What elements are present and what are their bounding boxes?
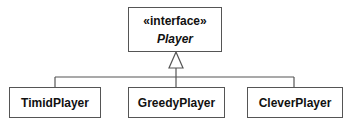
class-name: TimidPlayer xyxy=(21,96,89,110)
interface-player-box: «interface» Player xyxy=(128,7,222,52)
class-name: CleverPlayer xyxy=(259,96,332,110)
uml-diagram: «interface» Player TimidPlayer GreedyPla… xyxy=(0,0,348,125)
interface-name: Player xyxy=(157,32,193,46)
interface-stereotype: «interface» xyxy=(143,14,206,28)
class-timidplayer-box: TimidPlayer xyxy=(9,87,101,118)
class-cleverplayer-box: CleverPlayer xyxy=(247,87,343,118)
class-name: GreedyPlayer xyxy=(138,96,215,110)
realization-arrow-icon xyxy=(169,52,183,68)
class-greedyplayer-box: GreedyPlayer xyxy=(128,87,225,118)
